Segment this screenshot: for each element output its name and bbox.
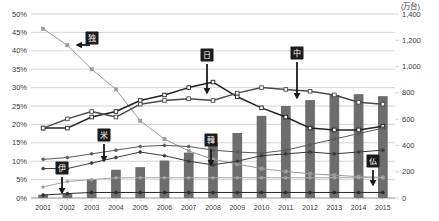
y-axis-left-tick: 5% (16, 175, 27, 184)
annotation-arrow-head (204, 88, 211, 95)
data-point (42, 185, 45, 188)
data-point (260, 191, 263, 194)
x-axis-tick: 2015 (375, 204, 391, 211)
annotation-label: 日 (203, 51, 211, 60)
y-axis-right-tick: 1,200 (402, 36, 421, 45)
bar (378, 96, 388, 198)
y-axis-left-tick: 25% (12, 102, 27, 111)
data-point (139, 176, 142, 179)
bar (354, 94, 364, 198)
data-point (139, 119, 142, 122)
y-axis-left-tick: 20% (12, 120, 27, 129)
data-point (212, 191, 215, 194)
y-axis-right-tick: 200 (402, 167, 415, 176)
data-point (236, 176, 239, 179)
data-point (212, 149, 215, 152)
data-point (90, 68, 93, 71)
data-point (66, 44, 69, 47)
y-axis-left: 0%5%10%15%20%25%30%35%40%45%50% (12, 10, 27, 203)
annotation-label: 韓 (207, 135, 215, 145)
data-point (90, 115, 94, 119)
y-axis-right-tick: 600 (402, 115, 415, 124)
data-point (114, 156, 117, 159)
x-axis-tick: 2007 (181, 204, 197, 211)
data-point (308, 126, 312, 130)
annotation-callout-独: 独 (76, 32, 99, 49)
y-axis-left-tick: 0% (16, 194, 27, 203)
data-point (236, 151, 239, 154)
data-point (309, 143, 312, 146)
data-point (284, 176, 287, 179)
annotation-callout-米: 米 (98, 129, 111, 163)
bar (305, 100, 315, 198)
x-axis-tick: 2001 (35, 204, 51, 211)
data-point (138, 102, 142, 106)
data-point (284, 170, 287, 173)
data-point (66, 117, 70, 121)
data-point (357, 128, 361, 132)
data-point (235, 91, 239, 95)
data-point (211, 99, 215, 103)
y-axis-right-tick: 800 (402, 88, 415, 97)
x-axis-tick: 2011 (278, 204, 293, 211)
data-point (90, 110, 94, 114)
x-axis-tick: 2009 (229, 204, 245, 211)
data-point (236, 191, 239, 194)
data-point (309, 191, 312, 194)
y-axis-left-tick: 10% (12, 157, 27, 166)
data-point (284, 191, 287, 194)
data-point (163, 138, 166, 141)
annotation-arrow-head (76, 42, 83, 48)
data-point (163, 93, 167, 97)
data-point (90, 191, 93, 194)
data-point (66, 192, 69, 195)
data-point (333, 138, 336, 141)
annotation-arrow-head (294, 93, 301, 100)
annotation-label: 米 (100, 130, 108, 140)
data-point (333, 191, 336, 194)
data-point (284, 115, 288, 119)
annotation-arrow-head (370, 180, 377, 187)
chart-container: 0%5%10%15%20%25%30%35%40%45%50%020040060… (0, 0, 439, 221)
data-point (333, 152, 336, 155)
y-axis-left-tick: 15% (12, 138, 27, 147)
data-point (114, 191, 117, 194)
data-point (42, 158, 45, 161)
data-point (139, 145, 142, 148)
bar (329, 95, 339, 198)
data-point (114, 149, 117, 152)
data-point (138, 99, 142, 103)
data-point (163, 191, 166, 194)
data-point (187, 97, 191, 101)
data-point (163, 144, 166, 147)
data-point (357, 151, 360, 154)
data-point (381, 191, 384, 194)
annotation-callout-中: 中 (291, 47, 304, 100)
bar (87, 179, 97, 198)
data-point (260, 86, 264, 90)
annotation-callout-仏: 仏 (367, 155, 380, 187)
y-axis-left-tick: 50% (12, 10, 27, 19)
x-axis-tick: 2010 (254, 204, 270, 211)
data-point (381, 102, 385, 106)
x-axis-tick: 2014 (351, 204, 367, 211)
y-axis-right-tick: 1,000 (402, 62, 421, 71)
data-point (187, 176, 190, 179)
y-axis-right-tick: 0 (402, 194, 406, 203)
data-point (212, 176, 215, 179)
data-point (357, 101, 361, 105)
data-point (211, 80, 215, 84)
annotation-label: 中 (293, 48, 301, 58)
data-point (187, 86, 191, 90)
bar (281, 106, 291, 198)
data-point (90, 152, 93, 155)
data-point (41, 126, 45, 130)
data-point (309, 151, 312, 154)
x-axis-tick: 2008 (205, 204, 221, 211)
data-point (284, 88, 288, 92)
data-point (90, 162, 93, 165)
data-point (114, 110, 118, 114)
x-axis-tick: 2004 (108, 204, 124, 211)
y-axis-right-tick: 400 (402, 141, 415, 150)
automobile-production-chart: 0%5%10%15%20%25%30%35%40%45%50%020040060… (0, 0, 439, 221)
